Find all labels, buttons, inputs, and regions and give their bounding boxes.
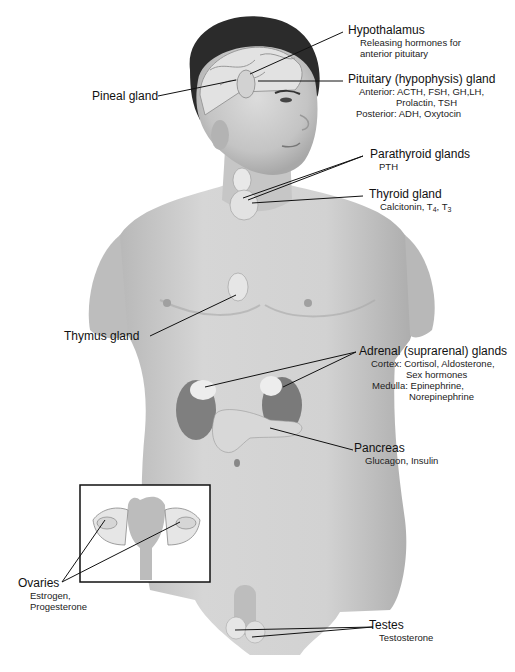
pancreas-hormones: Glucagon, Insulin: [354, 456, 438, 467]
pituitary-posterior: Posterior: ADH, Oxytocin: [348, 109, 495, 120]
ovary-inset: [80, 485, 210, 582]
hypothalamus-hormones-line2: anterior pituitary: [348, 49, 461, 60]
adrenal-label: Adrenal (suprarenal) glands Cortex: Cort…: [359, 345, 507, 402]
adrenal-title: Adrenal (suprarenal) glands: [359, 345, 507, 359]
pituitary-label: Pituitary (hypophysis) gland Anterior: A…: [348, 73, 495, 120]
parathyroid-label: Parathyroid glands PTH: [370, 148, 470, 173]
pineal-label: Pineal gland: [92, 90, 158, 104]
ovaries-hormones-line2: Progesterone: [18, 602, 87, 613]
adrenal-medulla-cont: Norepinephrine: [359, 392, 507, 403]
ovaries-title: Ovaries: [18, 577, 87, 591]
thymus-label: Thymus gland: [64, 330, 139, 344]
thymus-illustration: [228, 273, 248, 301]
adrenal-medulla: Medulla: Epinephrine,: [359, 381, 507, 392]
testes-title: Testes: [369, 619, 433, 633]
pituitary-anterior-cont: Prolactin, TSH: [348, 98, 495, 109]
testes-hormones: Testosterone: [369, 633, 433, 644]
thyroid-label: Thyroid gland Calcitonin, T4, T3: [369, 188, 451, 214]
parathyroid-hormones: PTH: [370, 162, 470, 173]
right-arm: [405, 235, 435, 337]
parathyroid-title: Parathyroid glands: [370, 148, 470, 162]
hypothalamus-title: Hypothalamus: [348, 24, 461, 38]
pancreas-label: Pancreas Glucagon, Insulin: [354, 442, 438, 467]
thyroid-hormones: Calcitonin, T4, T3: [369, 202, 451, 214]
hypothalamus-label: Hypothalamus Releasing hormones for ante…: [348, 24, 461, 60]
pancreas-title: Pancreas: [354, 442, 438, 456]
pituitary-title: Pituitary (hypophysis) gland: [348, 73, 495, 87]
thyroid-title: Thyroid gland: [369, 188, 451, 202]
testes-label: Testes Testosterone: [369, 619, 433, 644]
ovaries-label: Ovaries Estrogen, Progesterone: [18, 577, 87, 613]
adrenal-cortex-cont: Sex hormones: [359, 370, 507, 381]
